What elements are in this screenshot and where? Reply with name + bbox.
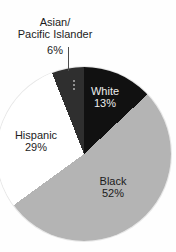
leader-line-asian	[68, 47, 69, 71]
label-black-percent: 52%	[91, 187, 135, 199]
label-white: White 13%	[83, 85, 127, 109]
label-asian-pacific-islander: Asian/ Pacific Islander	[12, 16, 98, 40]
label-white-name: White	[83, 85, 127, 97]
pie-chart-figure: Asian/ Pacific Islander 6% White 13% His…	[0, 0, 176, 252]
label-black-name: Black	[91, 175, 135, 187]
label-white-percent: 13%	[83, 97, 127, 109]
label-black: Black 52%	[91, 175, 135, 199]
label-asian-line1: Asian/	[12, 16, 98, 28]
label-hispanic-percent: 29%	[8, 141, 64, 153]
label-hispanic-name: Hispanic	[8, 129, 64, 141]
label-asian-line2: Pacific Islander	[12, 28, 98, 40]
label-hispanic: Hispanic 29%	[8, 129, 64, 153]
scan-artifact-mark	[73, 80, 75, 92]
